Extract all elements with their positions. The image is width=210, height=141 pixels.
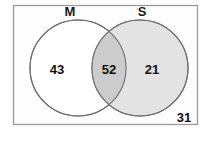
count-intersection: 52	[102, 62, 116, 77]
count-outside-universe: 31	[177, 110, 191, 125]
venn-diagram-figure: M S 43 52 21 31	[0, 0, 210, 141]
count-s-only: 21	[145, 62, 159, 77]
count-m-only: 43	[50, 62, 64, 77]
venn-diagram-canvas: M S 43 52 21 31	[0, 0, 210, 141]
set-m-label: M	[65, 4, 76, 19]
set-s-label: S	[138, 4, 147, 19]
